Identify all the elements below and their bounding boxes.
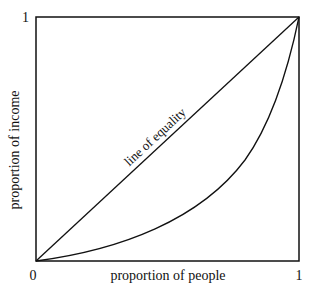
y-max-label: 1 [22, 10, 29, 25]
lorenz-diagram: 1 0 1 proportion of people proportion of… [0, 0, 311, 290]
line-of-equality [36, 17, 299, 261]
x-min-label: 0 [30, 268, 37, 283]
equality-line-label: line of equality [121, 104, 189, 169]
y-axis-label: proportion of income [7, 91, 22, 210]
x-max-label: 1 [296, 268, 303, 283]
x-axis-label: proportion of people [110, 268, 225, 283]
